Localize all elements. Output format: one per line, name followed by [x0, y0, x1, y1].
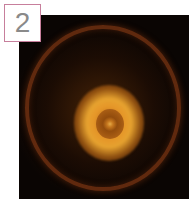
- panel-label: 2: [4, 4, 41, 42]
- inner-core: [96, 109, 124, 139]
- panel-label-text: 2: [15, 9, 31, 37]
- microscopy-image: [19, 15, 189, 199]
